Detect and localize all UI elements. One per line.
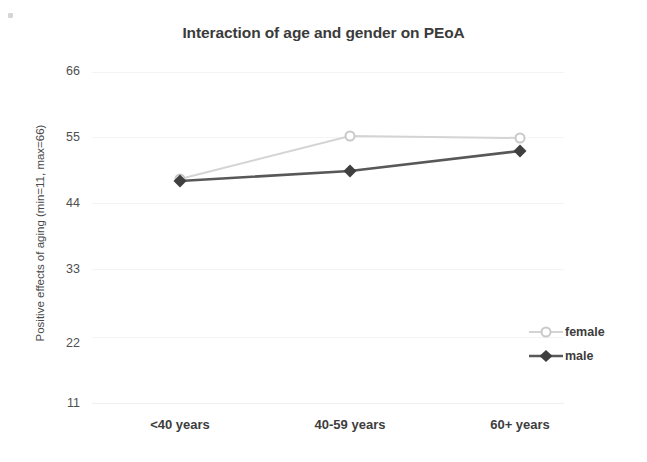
chart-container: Interaction of age and gender on PEoA Po… <box>0 0 647 462</box>
series-male-point-2 <box>514 145 527 158</box>
legend-label-male: male <box>565 349 594 363</box>
legend-marker-filled-diamond-icon <box>528 349 564 363</box>
legend-marker-open-circle-icon <box>528 325 564 339</box>
legend-item-male[interactable]: male <box>528 344 638 368</box>
series-female-point-1 <box>346 132 355 141</box>
legend-item-female[interactable]: female <box>528 320 638 344</box>
series-male-point-1 <box>344 165 357 178</box>
chart-legend: female male <box>528 320 638 368</box>
plot-area <box>0 0 647 462</box>
legend-label-female: female <box>565 325 605 339</box>
series-female-point-2 <box>516 134 525 143</box>
series-male <box>174 145 527 188</box>
